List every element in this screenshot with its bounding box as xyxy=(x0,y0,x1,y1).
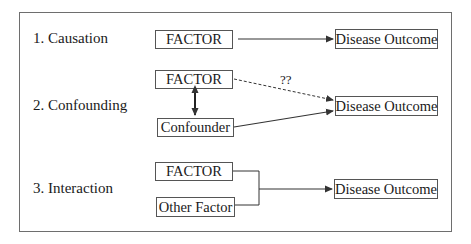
connector-lines xyxy=(0,0,471,244)
uncertain-arrow xyxy=(234,79,333,100)
confounder-outcome-arrow xyxy=(234,111,333,127)
